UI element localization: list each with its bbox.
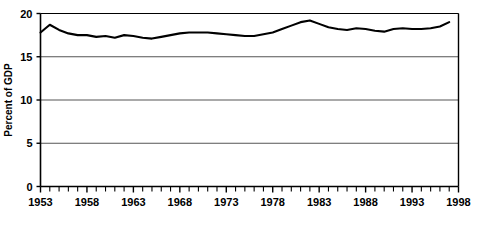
y-axis-tick-label: 15 bbox=[20, 51, 32, 63]
x-axis-tick-label: 1968 bbox=[168, 196, 192, 208]
x-axis-tick-label: 1953 bbox=[28, 196, 52, 208]
x-axis-tick-label: 1958 bbox=[75, 196, 99, 208]
x-axis-tick-label: 1978 bbox=[260, 196, 284, 208]
y-axis-tick-label: 0 bbox=[26, 181, 32, 193]
y-axis-title-group: Percent of GDP bbox=[3, 63, 14, 137]
x-axis-tick-label: 1973 bbox=[214, 196, 238, 208]
y-axis-tick-label: 5 bbox=[26, 137, 32, 149]
line-chart: 05101520 1953195819631968197319781983198… bbox=[0, 0, 481, 231]
x-axis-tick-label: 1988 bbox=[353, 196, 377, 208]
y-axis-title: Percent of GDP bbox=[3, 63, 14, 137]
x-axis-tick-label: 1998 bbox=[446, 196, 470, 208]
y-axis-tick-label: 20 bbox=[20, 8, 32, 20]
y-axis-tick-label: 10 bbox=[20, 94, 32, 106]
chart-container: 05101520 1953195819631968197319781983198… bbox=[0, 0, 481, 231]
x-axis-tick-label: 1993 bbox=[400, 196, 424, 208]
x-axis-tick-label: 1963 bbox=[121, 196, 145, 208]
x-axis-tick-label: 1983 bbox=[307, 196, 331, 208]
